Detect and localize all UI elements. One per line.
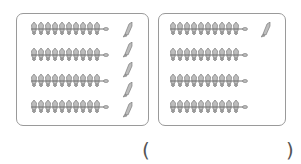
loose-fish-icon <box>123 42 134 58</box>
fish-bundle-icon <box>31 48 111 68</box>
loose-fish-icon <box>261 22 272 38</box>
fish-bundle-icon <box>170 74 250 94</box>
fish-bundle-icon <box>170 100 250 120</box>
left-fish-group <box>16 13 149 126</box>
loose-fish-icon <box>123 102 134 118</box>
loose-fish-icon <box>123 82 134 98</box>
answer-open-paren: ( <box>142 140 150 160</box>
answer-close-paren: ) <box>286 140 294 160</box>
right-fish-group <box>158 13 286 126</box>
answer-blank[interactable] <box>152 140 282 160</box>
fish-bundle-icon <box>31 22 111 42</box>
fish-bundle-icon <box>31 100 111 120</box>
loose-fish-icon <box>123 22 134 38</box>
loose-fish-icon <box>123 62 134 78</box>
fish-bundle-icon <box>31 74 111 94</box>
fish-bundle-icon <box>170 22 250 42</box>
fish-bundle-icon <box>170 48 250 68</box>
